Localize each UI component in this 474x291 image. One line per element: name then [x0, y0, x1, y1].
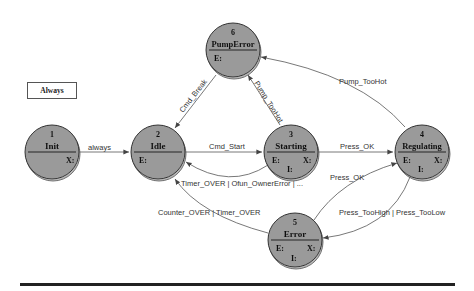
state-idle[interactable]: 2 Idle E: — [131, 125, 185, 179]
edge-label-press-toohigh: Press_TooHigh | Press_TooLow — [339, 208, 446, 217]
internal-action: I: — [291, 254, 297, 263]
state-number: 2 — [156, 130, 160, 139]
state-regulating[interactable]: 4 Regulating E: X: I: — [395, 125, 449, 179]
state-name: Idle — [150, 141, 165, 151]
state-number: 4 — [420, 130, 424, 139]
entry-action: E: — [272, 156, 280, 165]
edge-label-press-ok-error: Press_OK — [330, 173, 364, 182]
state-error[interactable]: 5 Error E: X: I: — [268, 213, 322, 267]
edge-label-press-ok: Press_OK — [340, 142, 374, 151]
state-init[interactable]: 1 Init X: — [25, 125, 79, 179]
exit-action: X: — [307, 244, 315, 253]
state-number: 1 — [50, 130, 54, 139]
state-pumperror[interactable]: 6 PumpError E: — [206, 23, 260, 77]
edge-label-cmd-break: Cmd_Break — [177, 77, 209, 114]
entry-action: E: — [276, 244, 284, 253]
edge-pumperror-idle[interactable] — [175, 75, 216, 128]
state-diagram: always Cmd_Start Press_OK Cmd_Break Pump… — [0, 0, 474, 291]
entry-action: E: — [214, 54, 222, 63]
internal-action: I: — [418, 165, 424, 174]
entry-action: E: — [403, 156, 411, 165]
exit-action: X: — [434, 156, 442, 165]
state-number: 5 — [293, 218, 297, 227]
exit-action: X: — [303, 156, 311, 165]
entry-action: E: — [139, 156, 147, 165]
edge-label-pump-toohot-regulating: Pump_TooHot — [339, 77, 387, 86]
state-name: Regulating — [402, 141, 442, 151]
state-name: PumpError — [212, 39, 255, 49]
edge-label-counter-over: Counter_OVER | Timer_OVER — [158, 208, 261, 217]
state-starting[interactable]: 3 Starting E: X: I: — [264, 125, 318, 179]
bottom-rule — [20, 283, 455, 286]
edge-starting-idle[interactable] — [186, 162, 268, 177]
edge-label-always: always — [88, 143, 111, 152]
state-name: Error — [284, 229, 306, 239]
state-name: Starting — [275, 141, 307, 151]
internal-action: I: — [287, 165, 293, 174]
edge-label-pump-toohot-starting: Pump_TooHot — [252, 79, 285, 125]
state-number: 6 — [231, 28, 235, 37]
edge-label-timer-over: Timer_OVER | Ofun_OwnerError | ... — [181, 179, 303, 188]
edge-label-cmd-start: Cmd_Start — [209, 142, 246, 151]
state-name: Init — [45, 141, 59, 151]
exit-action: X: — [66, 156, 74, 165]
state-number: 3 — [289, 130, 293, 139]
